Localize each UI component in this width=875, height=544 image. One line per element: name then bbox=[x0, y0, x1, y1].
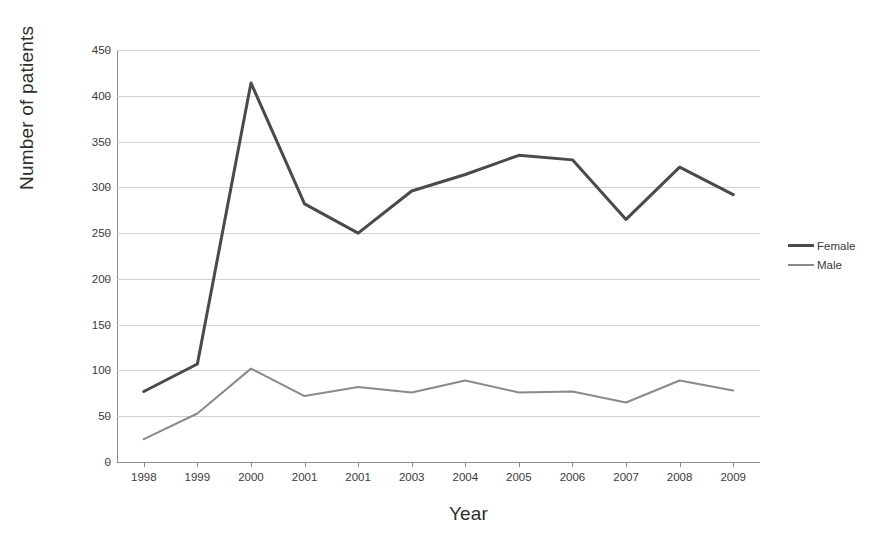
y-axis-tick-mark bbox=[106, 233, 111, 234]
x-axis-tick-mark bbox=[412, 462, 413, 467]
x-axis-tick-label: 2001 bbox=[328, 471, 388, 483]
series-lines bbox=[117, 50, 760, 462]
x-axis-tick-mark bbox=[680, 462, 681, 467]
y-axis-tick-mark bbox=[106, 187, 111, 188]
y-axis-tick-mark bbox=[106, 462, 111, 463]
y-axis-tick-label: 150 bbox=[65, 319, 111, 331]
x-axis-tick-label: 2009 bbox=[703, 471, 763, 483]
x-axis-tick-label: 2006 bbox=[542, 471, 602, 483]
x-axis-tick-mark bbox=[465, 462, 466, 467]
legend-line-swatch-icon bbox=[788, 244, 814, 247]
x-axis-tick-label: 2007 bbox=[596, 471, 656, 483]
x-axis-tick-label: 2004 bbox=[435, 471, 495, 483]
legend-label: Male bbox=[817, 259, 842, 271]
y-axis-tick-label: 200 bbox=[65, 273, 111, 285]
x-axis-tick-mark bbox=[358, 462, 359, 467]
chart-legend: FemaleMale bbox=[788, 236, 872, 274]
y-axis-title: Number of patients bbox=[16, 0, 38, 190]
series-line-female bbox=[144, 83, 733, 392]
x-axis-tick-label: 2000 bbox=[221, 471, 281, 483]
y-axis-tick-mark bbox=[106, 96, 111, 97]
y-axis-tick-mark bbox=[106, 279, 111, 280]
y-axis-tick-label: 250 bbox=[65, 227, 111, 239]
x-axis-tick-mark bbox=[251, 462, 252, 467]
legend-line-swatch-icon bbox=[788, 264, 814, 266]
x-axis-tick-mark bbox=[144, 462, 145, 467]
y-axis-tick-labels: 050100150200250300350400450 bbox=[59, 50, 111, 462]
y-axis-tick-label: 0 bbox=[65, 456, 111, 468]
x-axis-tick-label: 2005 bbox=[489, 471, 549, 483]
series-line-male bbox=[144, 369, 733, 440]
y-axis-tick-mark bbox=[106, 325, 111, 326]
x-axis-title: Year bbox=[0, 503, 875, 525]
legend-entry-male[interactable]: Male bbox=[788, 255, 872, 274]
x-axis-tick-label: 2001 bbox=[275, 471, 335, 483]
y-axis-tick-mark bbox=[106, 370, 111, 371]
x-axis-tick-mark bbox=[733, 462, 734, 467]
x-axis-tick-mark bbox=[572, 462, 573, 467]
y-axis-tick-label: 400 bbox=[65, 90, 111, 102]
line-chart-figure: Number of patients 050100150200250300350… bbox=[0, 0, 875, 544]
y-axis-tick-mark bbox=[106, 50, 111, 51]
y-axis-tick-label: 100 bbox=[65, 364, 111, 376]
x-axis-tick-label: 1999 bbox=[167, 471, 227, 483]
y-axis-tick-label: 300 bbox=[65, 181, 111, 193]
legend-label: Female bbox=[817, 240, 855, 252]
x-axis-tick-labels: 1998199920002001200120032004200520062007… bbox=[117, 471, 760, 491]
y-axis-tick-label: 50 bbox=[65, 410, 111, 422]
plot-area bbox=[117, 50, 760, 462]
y-axis-tick-label: 350 bbox=[65, 136, 111, 148]
x-axis-tick-mark bbox=[519, 462, 520, 467]
x-axis-tick-label: 2003 bbox=[382, 471, 442, 483]
x-axis-tick-marks bbox=[117, 462, 760, 468]
x-axis-tick-mark bbox=[305, 462, 306, 467]
x-axis-tick-mark bbox=[626, 462, 627, 467]
y-axis-tick-label: 450 bbox=[65, 44, 111, 56]
y-axis-tick-mark bbox=[106, 416, 111, 417]
y-axis-tick-mark bbox=[106, 142, 111, 143]
x-axis-tick-label: 2008 bbox=[650, 471, 710, 483]
x-axis-tick-label: 1998 bbox=[114, 471, 174, 483]
x-axis-tick-mark bbox=[197, 462, 198, 467]
legend-entry-female[interactable]: Female bbox=[788, 236, 872, 255]
